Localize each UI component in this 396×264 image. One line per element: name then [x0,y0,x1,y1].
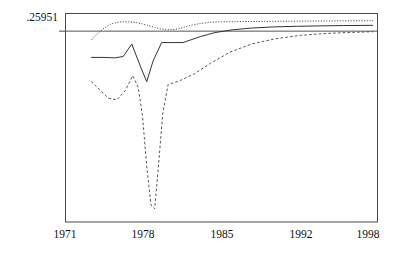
plot-frame [66,14,378,223]
series-layer [91,21,373,209]
plot-canvas [0,0,396,264]
x-axis-tick-label-1998: 1998 [357,228,380,240]
x-axis-tick-label-1985: 1985 [211,228,234,240]
plot-frame-rect [66,14,378,223]
series-central-estimate [91,25,373,81]
x-axis-tick-label-1992: 1992 [290,228,313,240]
series-lower-band [91,32,373,209]
chart-figure: .25951 1971 1978 1985 1992 1998 [0,0,396,264]
x-axis-tick-label-1978: 1978 [132,228,155,240]
series-upper-band [91,21,373,40]
y-axis-tick-label: .25951 [6,11,58,23]
x-axis-tick-label-1971: 1971 [54,228,77,240]
